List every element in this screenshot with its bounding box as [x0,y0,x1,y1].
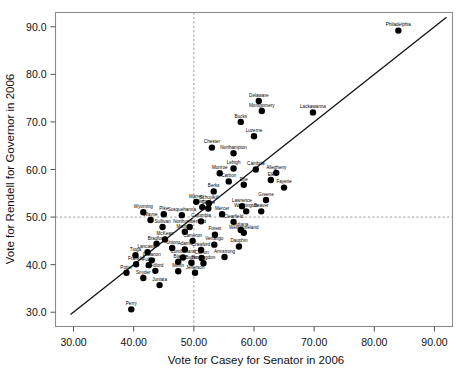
point-label: Erie [240,177,249,182]
y-tick-label: 80.0 [26,68,47,80]
data-point: Cambria [247,161,265,172]
data-point: Berks [208,183,220,194]
point-label: Lancaster [137,244,158,249]
point-label: Wyoming [134,204,154,209]
point-marker [123,270,129,276]
data-point: Bucks [235,114,248,125]
point-label: Sullivan [155,219,172,224]
point-label: Pike [159,206,168,211]
point-label: Montour [176,224,193,229]
data-point: Armstrong [214,249,236,260]
y-tick-label: 40.0 [26,259,47,271]
data-point: Chester [204,139,221,150]
data-point: Philadelphia [386,22,411,33]
scatter-plot-figure: 30.0040.0050.0060.0070.0080.0090.0030.04… [0,0,464,370]
y-tick-label: 90.0 [26,21,47,33]
point-label: Armstrong [214,249,236,254]
data-point: Erie [240,177,249,188]
point-label: Potter [120,265,133,270]
point-label: Mercer [215,206,230,211]
point-marker [238,119,244,125]
data-point: Lackawanna [300,104,326,115]
point-label: Allegheny [266,165,287,170]
data-point: Westmoreland [229,225,259,236]
point-marker [147,217,153,223]
data-point: Montgomery [249,103,275,114]
point-label: Carbon [221,173,237,178]
data-point: Greene [258,192,274,203]
point-label: Cameron [183,233,202,238]
x-tick-label: 60.00 [241,336,267,348]
point-label: Crawford [192,242,211,247]
y-tick-label: 70.0 [26,116,47,128]
point-label: Monroe [212,165,228,170]
point-label: Juniata [152,277,167,282]
data-point: Carbon [221,173,237,184]
point-label: Susquehanna [168,207,197,212]
x-axis-title: Vote for Casey for Senator in 2006 [168,354,344,366]
y-tick-label: 50.0 [26,211,47,223]
data-point: Elk [268,172,275,183]
point-label: Lackawanna [300,104,326,109]
point-label: Montgomery [249,103,275,108]
point-label: Wayne [143,212,158,217]
point-marker [259,108,265,114]
point-marker [175,268,181,274]
data-point: Fayette [276,179,292,190]
y-tick-label: 60.0 [26,164,47,176]
point-label: Forest [208,226,222,231]
x-tick-label: 80.00 [361,336,387,348]
point-label: Fulton [142,257,155,262]
point-label: Clearfield [224,214,244,219]
point-label: Northampton [220,145,247,150]
point-label: Columbia [191,213,211,218]
point-label: Luzerne [246,128,263,133]
x-tick-label: 70.00 [301,336,327,348]
point-label: Snyder [136,270,151,275]
point-label: Huntingdon [192,255,216,260]
point-marker [152,268,158,274]
y-axis-title: Vote for Rendell for Governor in 2006 [4,74,16,265]
point-label: Mifflin [172,263,184,268]
point-label: Elk [268,172,275,177]
point-marker [133,261,139,267]
point-marker [241,182,247,188]
data-point: Juniata [152,277,167,288]
point-label: Philadelphia [386,22,411,27]
point-marker [243,208,249,214]
data-point: Beaver [254,203,269,214]
y-tick-label: 30.0 [26,306,47,318]
point-label: Bradford [148,236,166,241]
x-tick-label: 30.00 [60,336,86,348]
point-label: Chester [204,139,221,144]
point-marker [210,188,216,194]
point-marker [230,150,236,156]
point-marker [281,184,287,190]
point-label: Bucks [235,114,248,119]
axis-ticks: 30.0040.0050.0060.0070.0080.0090.0030.04… [26,21,448,348]
point-label: Blair [174,254,184,259]
point-marker [268,177,274,183]
point-marker [253,166,259,172]
point-marker [241,230,247,236]
point-marker [128,306,134,312]
point-marker [258,208,264,214]
point-label: Adams [178,241,193,246]
point-label: Bedford [147,263,164,268]
x-tick-label: 90.00 [421,336,447,348]
data-point: Snyder [136,270,151,281]
point-label: Dauphin [230,238,248,243]
point-label: Delaware [249,93,269,98]
point-marker [205,205,211,211]
point-label: Lehigh [227,160,241,165]
data-point: Luzerne [246,128,263,139]
point-label: Fayette [276,179,292,184]
data-point: Lehigh [227,160,241,171]
data-point: Jefferson [186,265,205,276]
point-label: Perry [126,301,138,306]
point-label: Cambria [247,161,265,166]
point-label: Berks [208,183,220,188]
point-label: Westmoreland [229,225,259,230]
point-marker [156,282,162,288]
data-point: Perry [126,301,138,312]
